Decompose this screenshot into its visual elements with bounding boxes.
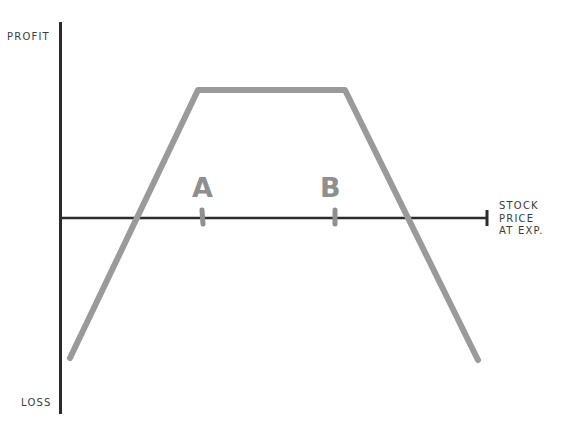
payoff-diagram [0,0,574,439]
x-axis-label: STOCK PRICE AT EXP. [499,200,544,238]
x-axis-label-line: PRICE [499,213,544,226]
y-axis-top-label: PROFIT [7,31,50,44]
marker-a-label: A [192,174,213,201]
marker-a-tick [202,210,203,224]
marker-b-label: B [320,174,341,201]
x-axis-label-line: STOCK [499,200,544,213]
x-axis-label-line: AT EXP. [499,225,544,238]
y-axis-bottom-label: LOSS [21,397,52,410]
payoff-line [70,90,478,360]
